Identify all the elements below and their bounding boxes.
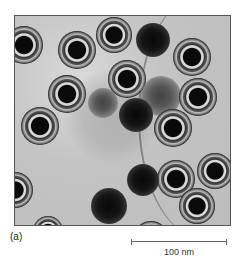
virus-particle <box>33 216 63 226</box>
virus-particle <box>136 23 170 57</box>
virus-particle <box>133 221 169 226</box>
virus-particle <box>48 75 86 113</box>
scale-bar <box>131 241 227 242</box>
virus-particle <box>14 26 43 64</box>
electron-micrograph <box>14 15 231 226</box>
virus-particle <box>127 164 159 196</box>
virus-particle <box>119 98 153 132</box>
virus-particle <box>179 188 215 224</box>
virus-particle <box>58 31 96 69</box>
virus-particle <box>197 153 231 189</box>
virus-particle <box>91 188 127 224</box>
virus-particle <box>21 107 59 145</box>
virus-particle <box>14 172 33 208</box>
virus-particle <box>173 38 211 76</box>
panel-label: (a) <box>10 231 22 242</box>
virus-particle <box>154 109 192 147</box>
virus-particle <box>179 78 217 116</box>
virus-particle <box>88 88 118 118</box>
scale-bar-label: 100 nm <box>131 247 227 257</box>
virus-particle <box>96 17 132 53</box>
